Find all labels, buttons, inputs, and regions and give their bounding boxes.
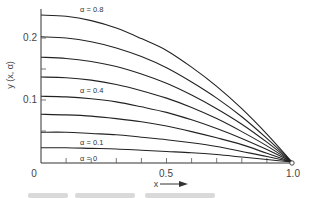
- y-tick-label-0-1: 0.1: [23, 94, 37, 105]
- caption-fragment: [75, 193, 135, 198]
- x-tick-label-0: 0: [31, 168, 37, 179]
- alpha-label-0: α = 0: [80, 154, 97, 163]
- endpoint-marker: [290, 161, 294, 165]
- x-direction-arrow-icon: [160, 181, 188, 187]
- x-axis-title: x: [154, 179, 159, 189]
- curve-07: [41, 37, 292, 162]
- alpha-label-0-8: α = 0.8: [80, 5, 103, 14]
- curve-06: [41, 57, 292, 162]
- y-axis-title: y (x, α): [5, 61, 15, 89]
- x-tick-label-1-0: 1.0: [286, 168, 300, 179]
- y-axis-ticks: [41, 38, 46, 131]
- curve-02: [41, 132, 292, 162]
- caption-fragment: [145, 193, 215, 198]
- alpha-label-0-1: α = 0.1: [80, 138, 103, 147]
- line-chart: 0 0.5 1.0 0.1 0.2 y (x, α) x α = 0.8 α =…: [0, 0, 310, 198]
- y-tick-label-0-2: 0.2: [23, 32, 37, 43]
- curve-series: [41, 15, 292, 162]
- alpha-label-0-4: α = 0.4: [80, 86, 103, 95]
- x-tick-label-0-5: 0.5: [159, 168, 173, 179]
- curve-04: [41, 96, 292, 162]
- caption-fragment: [28, 193, 68, 198]
